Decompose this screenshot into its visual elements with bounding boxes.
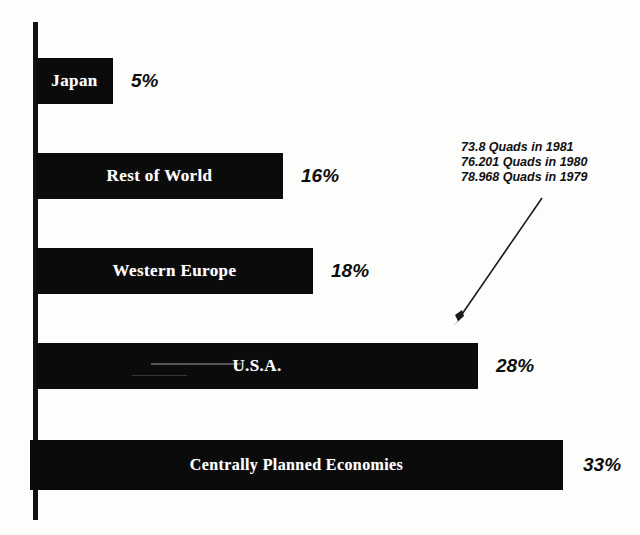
- annotation-quads: 73.8 Quads in 1981 76.201 Quads in 1980 …: [461, 140, 587, 185]
- bar-centrally-planned-economies[interactable]: Centrally Planned Economies: [30, 440, 563, 490]
- annotation-arrow-icon: [440, 190, 555, 335]
- bar-label-western-europe: Western Europe: [113, 261, 237, 281]
- bar-japan[interactable]: Japan: [36, 58, 113, 104]
- bar-chart: Japan 5% Rest of World 16% Western Europ…: [0, 0, 640, 535]
- bar-label-centrally-planned-economies: Centrally Planned Economies: [190, 456, 403, 474]
- bar-value-japan: 5%: [131, 70, 158, 92]
- annotation-line-2: 76.201 Quads in 1980: [461, 155, 587, 170]
- annotation-line-3: 78.968 Quads in 1979: [461, 170, 587, 185]
- bar-value-rest-of-world: 16%: [301, 165, 339, 187]
- scan-artifact: [132, 375, 187, 376]
- annotation-line-1: 73.8 Quads in 1981: [461, 140, 587, 155]
- bar-value-centrally-planned-economies: 33%: [583, 454, 621, 476]
- scan-artifact: [151, 363, 241, 365]
- bar-value-usa: 28%: [496, 355, 534, 377]
- bar-rest-of-world[interactable]: Rest of World: [36, 153, 283, 199]
- bar-usa[interactable]: U.S.A.: [36, 343, 478, 389]
- bar-label-rest-of-world: Rest of World: [107, 166, 213, 186]
- bar-western-europe[interactable]: Western Europe: [36, 248, 313, 294]
- bar-label-usa: U.S.A.: [232, 356, 281, 376]
- bar-label-japan: Japan: [51, 71, 97, 91]
- bar-value-western-europe: 18%: [331, 260, 369, 282]
